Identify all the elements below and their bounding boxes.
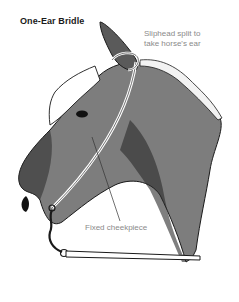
annotation-sliphead-line2: take horse's ear xyxy=(144,39,239,49)
horse-ear xyxy=(100,22,138,70)
annotation-sliphead: Sliphead split to take horse's ear xyxy=(144,29,239,49)
horse-nostril xyxy=(22,196,30,212)
annotation-cheekpiece: Fixed cheekpiece xyxy=(85,223,147,233)
annotation-sliphead-line1: Sliphead split to xyxy=(144,29,239,39)
horse-eye xyxy=(76,111,88,118)
figure-title: One-Ear Bridle xyxy=(20,16,84,26)
